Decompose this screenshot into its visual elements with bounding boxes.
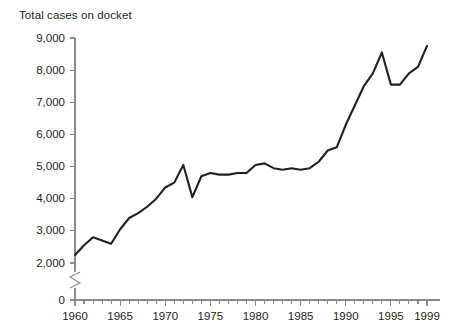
x-axis-tick-labels: 196019651970197519801985199019951999	[62, 310, 440, 322]
x-axis-tick-label: 1980	[243, 310, 269, 322]
chart-container: Total cases on docket 02,0003,0004,0005,…	[0, 0, 462, 333]
axis-break-icon	[70, 272, 80, 288]
x-axis-tick-label: 1999	[414, 310, 440, 322]
y-axis-tick-label: 5,000	[36, 160, 65, 172]
y-axis-tick-label: 9,000	[36, 32, 65, 44]
x-axis-tick-label: 1995	[378, 310, 404, 322]
x-axis-tick-label: 1990	[333, 310, 359, 322]
y-axis-ticks	[70, 38, 75, 300]
x-axis-tick-label: 1965	[107, 310, 133, 322]
y-axis-tick-labels: 02,0003,0004,0005,0006,0007,0008,0009,00…	[36, 32, 65, 306]
x-axis-tick-label: 1985	[288, 310, 314, 322]
x-axis-tick-label: 1970	[152, 310, 178, 322]
y-axis-tick-label: 2,000	[36, 257, 65, 269]
y-axis-tick-label: 4,000	[36, 192, 65, 204]
y-axis-tick-label: 8,000	[36, 64, 65, 76]
line-chart-plot: 02,0003,0004,0005,0006,0007,0008,0009,00…	[0, 0, 462, 333]
data-series-line	[75, 46, 427, 255]
y-axis-tick-label: 6,000	[36, 128, 65, 140]
y-axis-tick-label: 0	[59, 294, 65, 306]
x-axis-tick-label: 1975	[198, 310, 224, 322]
y-axis-tick-label: 3,000	[36, 224, 65, 236]
x-axis-ticks	[75, 300, 427, 306]
y-axis-tick-label: 7,000	[36, 96, 65, 108]
x-axis-tick-label: 1960	[62, 310, 88, 322]
